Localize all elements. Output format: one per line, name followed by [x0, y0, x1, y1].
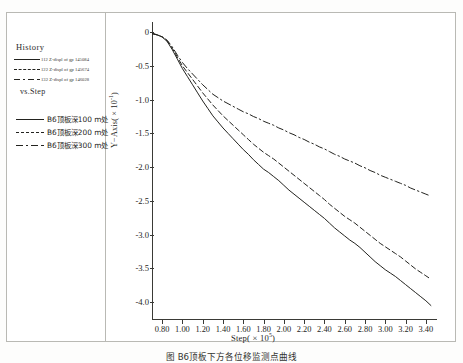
- y-tick-label: -1.5: [115, 129, 149, 138]
- line-sample-solid-icon: [14, 56, 40, 63]
- legend-vs-label: vs.Step: [20, 86, 106, 97]
- x-axis-line: 0.801.001.201.401.601.802.002.202.402.60…: [152, 319, 437, 320]
- x-axis-title: Step( × 105): [231, 333, 275, 343]
- legend-item-label: 132 Z-displ of gp 146028: [41, 76, 89, 82]
- legend-panel: History 112 Z-displ of gp 145084 122 Z-d…: [7, 13, 106, 341]
- y-tick-label: -3.5: [115, 264, 149, 273]
- line-sample-dashdot-icon: [16, 142, 44, 150]
- x-tick-mark: [162, 320, 163, 324]
- legend-item: B6顶板深100 m处: [16, 114, 108, 125]
- legend-item-label: 122 Z-displ of gp 145674: [41, 66, 89, 72]
- y-tick-label: -4.0: [115, 298, 149, 307]
- x-tick-mark: [345, 320, 346, 324]
- legend-item: B6顶板深300 m处: [16, 140, 108, 151]
- legend-item-label: 112 Z-displ of gp 145084: [41, 56, 89, 62]
- y-axis-title-text: Y−Axis( × 10: [110, 100, 119, 148]
- figure-caption: 图 B6顶板下方各位移监测点曲线: [0, 350, 463, 362]
- y-axis-title-exponent: -1: [108, 95, 114, 100]
- y-tick-label: -1.0: [115, 95, 149, 104]
- legend-title: History: [16, 42, 106, 53]
- y-tick-label: -0.5: [115, 61, 149, 70]
- x-tick-mark: [406, 320, 407, 324]
- line-sample-solid-icon: [16, 116, 44, 124]
- line-sample-dashed-icon: [16, 129, 44, 137]
- series-line: [152, 33, 431, 305]
- y-axis-title-tail: ): [110, 92, 119, 95]
- x-tick-mark: [243, 320, 244, 324]
- y-tick-label: 0: [115, 28, 149, 37]
- x-tick-mark: [182, 320, 183, 324]
- y-tick-label: -2.0: [115, 163, 149, 172]
- x-tick-mark: [365, 320, 366, 324]
- legend-item: 112 Z-displ of gp 145084: [14, 55, 106, 64]
- legend-item: 122 Z-displ of gp 145674: [14, 65, 106, 74]
- x-tick-mark: [324, 320, 325, 324]
- y-tick-label: -3.0: [115, 230, 149, 239]
- x-tick-mark: [203, 320, 204, 324]
- legend-series-block: B6顶板深100 m处 B6顶板深200 m处 B6顶板深300 m处: [16, 114, 108, 153]
- legend-item-label: B6顶板深100 m处: [47, 115, 108, 125]
- legend-item-label: B6顶板深300 m处: [47, 141, 108, 151]
- chart-curves: [152, 22, 436, 319]
- series-line: [152, 33, 431, 279]
- figure-page: History 112 Z-displ of gp 145084 122 Z-d…: [0, 0, 463, 363]
- x-tick-label: 3.40: [406, 325, 446, 335]
- x-tick-mark: [304, 320, 305, 324]
- line-sample-dashdot-icon: [14, 76, 40, 83]
- x-tick-mark: [264, 320, 265, 324]
- y-axis-title: Y−Axis( × 10-1): [110, 92, 119, 148]
- legend-item: B6顶板深200 m处: [16, 127, 108, 138]
- x-tick-mark: [426, 320, 427, 324]
- legend-history-block: History 112 Z-displ of gp 145084 122 Z-d…: [14, 42, 106, 97]
- series-line: [152, 33, 431, 196]
- plot-area: [152, 22, 436, 319]
- x-axis-title-tail: ): [272, 333, 275, 343]
- legend-item: 132 Z-displ of gp 146028: [14, 75, 106, 84]
- x-tick-mark: [223, 320, 224, 324]
- legend-item-label: B6顶板深200 m处: [47, 128, 108, 138]
- x-axis-title-text: Step( × 10: [231, 333, 269, 343]
- y-tick-label: -2.5: [115, 196, 149, 205]
- x-tick-mark: [385, 320, 386, 324]
- line-sample-dashed-icon: [14, 66, 40, 73]
- x-tick-mark: [284, 320, 285, 324]
